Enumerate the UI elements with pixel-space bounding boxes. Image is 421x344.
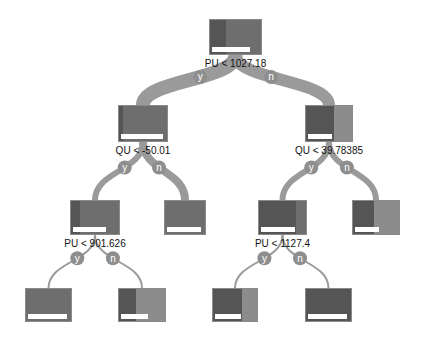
tree-node-n10 [305,288,352,322]
edge-label-yes: y [75,253,80,264]
class-proportion-segment [296,201,306,234]
node-sample-bar [167,227,201,232]
edge-label-no: n [110,253,116,264]
split-condition-label: PU < 1127.4 [255,238,310,249]
edge-label-yes: y [122,162,127,173]
class-proportion-segment [242,289,257,321]
split-condition-label: PU < 1027.18 [205,58,266,69]
split-condition-label: QU < 39.78385 [295,145,363,156]
tree-node-n1 [118,105,168,142]
decision-tree-diagram: ynynynynyn PU < 1027.18QU < -50.01QU < 3… [0,0,421,344]
edge-label-no: n [156,162,162,173]
node-sample-bar [121,314,148,319]
tree-node-n2 [305,105,353,142]
node-sample-bar [308,314,347,319]
edge-label-no: n [297,253,303,264]
tree-node-n9 [212,288,258,322]
node-sample-bar [215,314,241,319]
tree-node-n7 [25,288,72,322]
edge-label-yes: y [262,253,267,264]
node-sample-bar [73,227,106,232]
node-sample-bar [121,134,163,139]
tree-node-n5 [258,200,307,235]
tree-node-n4 [164,200,206,235]
node-sample-bar [28,314,67,319]
tree-node-root [209,19,262,55]
edge-label-no: n [268,71,274,82]
edge-label-yes: y [309,162,314,173]
tree-node-n8 [118,288,166,322]
node-sample-bar [355,227,379,232]
edge-label-no: n [344,162,350,173]
split-condition-label: PU < 901.626 [64,238,125,249]
tree-node-n6 [352,200,400,235]
class-proportion-segment [334,106,352,141]
edge-label-yes: y [198,71,203,82]
node-sample-bar [308,134,332,139]
node-sample-bar [212,47,250,52]
split-condition-label: QU < -50.01 [116,145,171,156]
node-sample-bar [261,227,295,232]
tree-node-n3 [70,200,120,235]
